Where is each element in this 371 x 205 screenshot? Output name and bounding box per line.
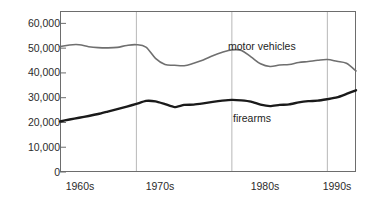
- plot-frame: [61, 12, 356, 172]
- y-tick-label-20000: 20,000: [6, 117, 60, 127]
- line-chart: 60,000 50,000 40,000 30,000 20,000 10,00…: [0, 0, 371, 205]
- y-tick-label-50000: 50,000: [6, 43, 60, 53]
- y-axis-labels: 60,000 50,000 40,000 30,000 20,000 10,00…: [0, 0, 60, 205]
- y-tick-label-30000: 30,000: [6, 92, 60, 102]
- x-tick-label-1990s: 1990s: [311, 180, 363, 192]
- y-tick-label-60000: 60,000: [6, 18, 60, 28]
- x-tick-label-1970s: 1970s: [134, 180, 186, 192]
- series-label-firearms: firearms: [233, 112, 271, 124]
- gridlines: [136, 11, 327, 172]
- series-label-motor-vehicles: motor vehicles: [228, 40, 296, 52]
- series-line-motor-vehicles: [60, 45, 356, 71]
- y-tick-label-0: 0: [6, 167, 60, 177]
- data-series: [60, 45, 356, 122]
- x-tick-label-1980s: 1980s: [239, 180, 291, 192]
- x-tick-label-1960s: 1960s: [54, 180, 106, 192]
- y-tick-label-40000: 40,000: [6, 67, 60, 77]
- axis-frame: [61, 12, 356, 172]
- series-line-firearms: [60, 90, 356, 121]
- y-tick-label-10000: 10,000: [6, 142, 60, 152]
